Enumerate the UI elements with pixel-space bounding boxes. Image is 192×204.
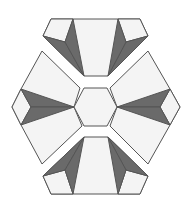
hexagon-pattern-canvas bbox=[0, 0, 192, 204]
center-hexagon bbox=[74, 88, 117, 126]
center-hexagon-light-facet bbox=[74, 88, 117, 126]
left-piece bbox=[12, 51, 82, 164]
right-piece bbox=[110, 51, 180, 164]
quilt-diagram: Hexagonal star block pattern bbox=[0, 0, 192, 204]
